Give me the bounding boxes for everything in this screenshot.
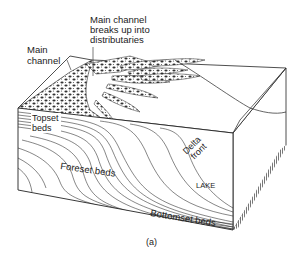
topset-label: Topset beds [31,113,61,133]
svg-text:Main: Main [27,44,48,55]
main-channel-label: Main channel [27,44,60,66]
lake-label: LAKE [196,181,215,190]
svg-text:Topset: Topset [32,113,59,123]
svg-text:channel: channel [27,55,60,66]
svg-text:beds: beds [32,123,52,133]
delta-block-diagram: Main channel Main channel breaks up into… [0,0,302,261]
distributaries-label: Main channel breaks up into distributari… [90,14,150,45]
panel-label: (a) [146,237,157,247]
svg-text:distributaries: distributaries [90,34,144,45]
